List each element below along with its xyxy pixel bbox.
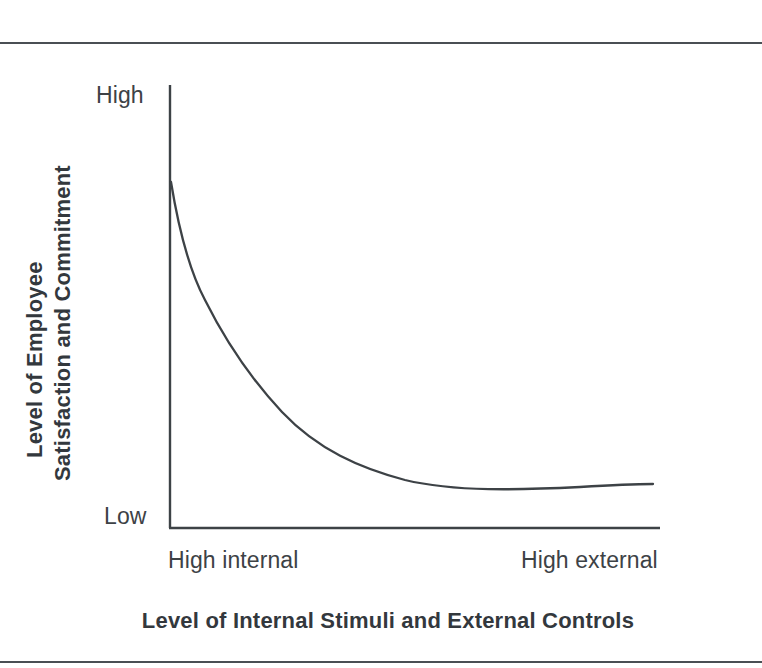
x-axis-tick-high-external: High external xyxy=(521,547,658,574)
y-axis-title-line-2: Satisfaction and Commitment xyxy=(50,165,76,481)
figure-container: High Low High internal High external Lev… xyxy=(0,0,762,668)
satisfaction-curve xyxy=(171,182,653,489)
x-axis-title: Level of Internal Stimuli and External C… xyxy=(0,608,762,634)
y-axis-title-line-1: Level of Employee xyxy=(22,261,48,458)
x-axis-tick-high-internal: High internal xyxy=(168,547,298,574)
y-axis-tick-low: Low xyxy=(104,503,147,530)
y-axis-tick-high: High xyxy=(96,82,144,109)
